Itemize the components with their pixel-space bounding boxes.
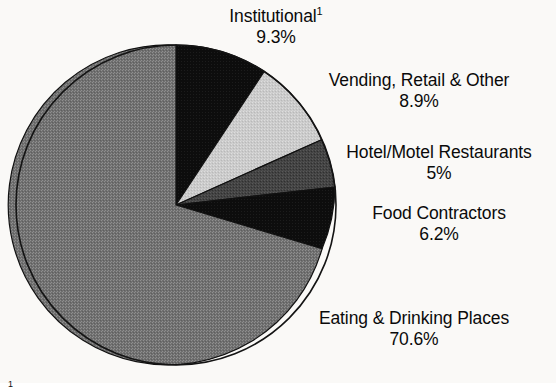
slice-label-food-contractors-name: Food Contractors: [326, 203, 552, 223]
slice-label-eating-drinking-places-name: Eating & Drinking Places: [276, 308, 552, 328]
slice-value-vending-retail-other: 8.9%: [286, 91, 552, 111]
slice-label-hotel-motel-restaurants: Hotel/Motel Restaurants 5%: [326, 142, 552, 184]
slice-value-food-contractors: 6.2%: [326, 224, 552, 244]
slice-value-institutional: 9.3%: [196, 27, 356, 47]
slice-label-institutional: Institutional1 9.3%: [196, 6, 356, 48]
footnote-marker: 1: [8, 380, 13, 389]
slice-label-vending-retail-other: Vending, Retail & Other 8.9%: [286, 70, 552, 112]
chart-footnote: 1: [8, 380, 548, 391]
slice-label-institutional-name: Institutional1: [196, 6, 356, 26]
slice-label-food-contractors: Food Contractors 6.2%: [326, 203, 552, 245]
slice-label-eating-drinking-places: Eating & Drinking Places 70.6%: [276, 308, 552, 350]
slice-value-hotel-motel-restaurants: 5%: [326, 163, 552, 183]
footnote-marker-institutional: 1: [317, 5, 323, 17]
slice-label-hotel-motel-restaurants-name: Hotel/Motel Restaurants: [326, 142, 552, 162]
slice-value-eating-drinking-places: 70.6%: [276, 329, 552, 349]
slice-label-vending-retail-other-name: Vending, Retail & Other: [286, 70, 552, 90]
